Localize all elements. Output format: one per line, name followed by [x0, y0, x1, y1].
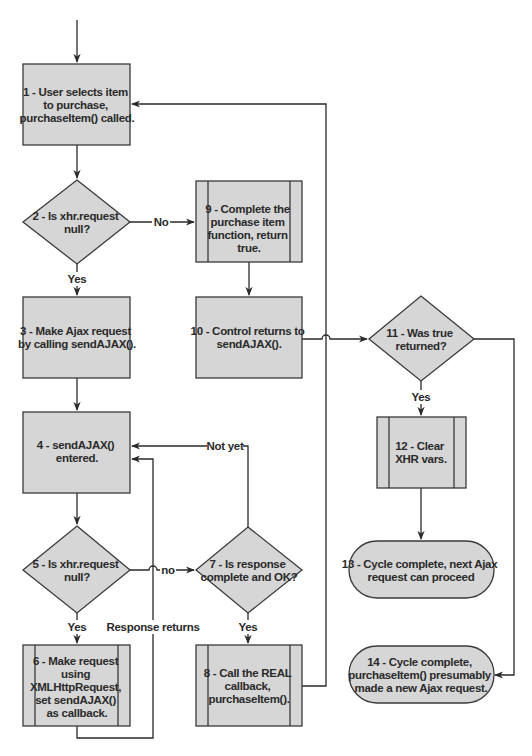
node-8-call-real-callback: 8 - Call the REAL callback, purchaseItem…: [196, 645, 302, 726]
label-n2-yes: Yes: [68, 273, 87, 285]
svg-text:7 - Is response complete: 7 - Is response complete and OK?: [201, 558, 298, 583]
node-13-cycle-complete-next: 13 - Cycle complete, next Ajax request c…: [342, 541, 500, 598]
label-n5-yes: Yes: [68, 621, 87, 633]
svg-text:11 - Was true returned?: 11 - Was true returned?: [386, 327, 456, 352]
svg-text:12 - Clear XHR vars.: 12 - Clear XHR vars.: [395, 440, 447, 465]
label-n7-yes: Yes: [239, 621, 258, 633]
label-response-returns: Response returns: [107, 621, 200, 633]
node-5-is-xhr-request-null: 5 - Is xhr.request null?: [23, 526, 130, 613]
edge-n11-n14: [474, 339, 514, 675]
node-6-make-request-xmlhttprequest: 6 - Make request using XMLHttpRequest, s…: [23, 645, 130, 726]
edge-n10-n11: [302, 335, 367, 339]
edge-n7-n4: [132, 446, 248, 527]
svg-text:14 - Cycle complete, pur: 14 - Cycle complete, purchaseItem() pres…: [348, 656, 494, 694]
label-n5-no: no: [161, 564, 175, 576]
label-n11-yes: Yes: [412, 391, 431, 403]
node-12-clear-xhr-vars: 12 - Clear XHR vars.: [377, 417, 466, 488]
node-2-is-xhr-request-null: 2 - Is xhr.request null?: [23, 180, 130, 264]
node-3-make-ajax-request: 3 - Make Ajax request by calling sendAJA…: [18, 297, 136, 378]
node-10-control-returns: 10 - Control returns to sendAJAX().: [191, 297, 308, 378]
node-7-is-response-complete: 7 - Is response complete and OK?: [196, 527, 302, 613]
node-9-complete-purchase-function: 9 - Complete the purchase item function,…: [196, 181, 302, 262]
node-11-was-true-returned: 11 - Was true returned?: [369, 296, 474, 381]
label-n7-not-yet: Not yet: [207, 440, 244, 452]
node-4-sendajax-entered: 4 - sendAJAX() entered.: [23, 412, 130, 493]
ajax-purchase-flowchart: No Yes Yes no Yes Not yet Response retur…: [0, 0, 532, 756]
label-n2-no: No: [154, 216, 169, 228]
node-14-cycle-complete-new-request: 14 - Cycle complete, purchaseItem() pres…: [348, 646, 494, 703]
svg-text:3 - Make Ajax request by: 3 - Make Ajax request by calling sendAJA…: [18, 325, 136, 350]
node-1-user-selects-item: 1 - User selects item to purchase, purch…: [20, 64, 135, 145]
